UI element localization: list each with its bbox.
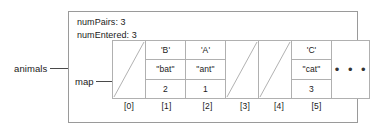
array-index-2: [2] (187, 101, 228, 111)
cell-value: "ant" (186, 60, 225, 79)
array-index-5: [5] (296, 101, 337, 111)
array-cell-1: 'B' "bat" 2 (146, 41, 186, 98)
cell-count: 1 (186, 80, 225, 98)
array-index-0: [0] (112, 101, 146, 111)
array-index-4: [4] (262, 101, 296, 111)
array-cell-3 (226, 41, 259, 98)
cell-key: 'C' (292, 41, 331, 60)
cell-value: "cat" (292, 60, 331, 79)
array-cell-4 (259, 41, 292, 98)
cell-count: 2 (146, 80, 185, 98)
cell-count: 3 (292, 80, 331, 98)
null-slash-icon (113, 41, 145, 98)
animals-pointer-label: animals (14, 63, 47, 74)
array-cell-2: 'A' "ant" 1 (186, 41, 226, 98)
array-index-3: [3] (228, 101, 262, 111)
ellipsis-icon: • • • (332, 41, 369, 98)
cell-key: 'A' (186, 41, 225, 60)
null-slash-icon (226, 41, 258, 98)
hash-table-array: 'B' "bat" 2 'A' "ant" 1 'C' (112, 40, 370, 99)
array-continuation-cell: • • • (332, 41, 369, 98)
cell-key: 'B' (146, 41, 185, 60)
array-wrapper: 'B' "bat" 2 'A' "ant" 1 'C' (112, 40, 370, 99)
cell-value: "bat" (146, 60, 185, 79)
map-pointer-label: map (75, 76, 93, 87)
array-index-1: [1] (146, 101, 187, 111)
array-cell-5: 'C' "cat" 3 (292, 41, 332, 98)
array-index-labels: [0] [1] [2] [3] [4] [5] (112, 101, 337, 111)
field-numpairs: numPairs: 3 (77, 16, 137, 29)
null-slash-icon (259, 41, 291, 98)
field-list: numPairs: 3 numEntered: 3 (77, 16, 137, 41)
array-cell-0 (113, 41, 146, 98)
